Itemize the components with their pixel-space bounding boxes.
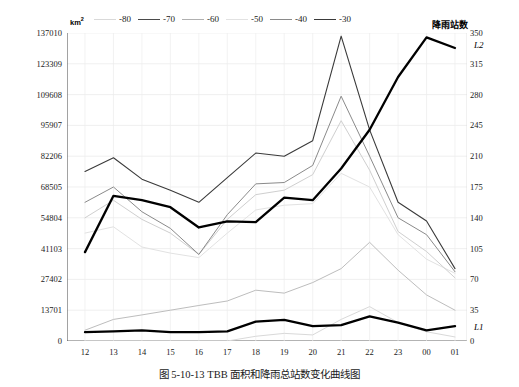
legend-swatch-icon	[94, 19, 116, 20]
left-axis-unit: km2	[70, 16, 84, 27]
x-axis-tick-label: 17	[216, 348, 238, 357]
x-axis-tick-label: 15	[159, 348, 181, 357]
legend-item-minus70[interactable]: -70	[138, 15, 175, 24]
left-axis-tick-label: 109608	[37, 91, 63, 100]
right-axis-tick-label: 140	[470, 214, 483, 223]
x-axis-tick-label: 13	[102, 348, 124, 357]
right-axis-tick-label: 210	[470, 152, 483, 161]
right-axis-title: 降雨站数	[432, 18, 468, 31]
left-axis-tick-label: 27402	[41, 275, 62, 284]
x-axis-tick-label: 21	[330, 348, 352, 357]
left-axis-unit-exponent: 2	[81, 16, 84, 22]
legend-swatch-icon	[314, 19, 336, 20]
left-axis-ticks: 0137012740241103548046850582206959071096…	[0, 0, 62, 387]
left-axis-tick-label: 82206	[41, 152, 62, 161]
right-axis-tick-label: 280	[470, 91, 483, 100]
x-axis-tick-label: 14	[131, 348, 153, 357]
right-axis-tick-label: 315	[470, 60, 483, 69]
left-axis-tick-label: 95907	[41, 121, 62, 130]
right-axis-tick-label: 245	[470, 121, 483, 130]
legend-item-minus30[interactable]: -30	[314, 15, 351, 24]
right-axis-tick-label: 70	[470, 275, 479, 284]
x-axis-tick-label: 01	[444, 348, 466, 357]
x-axis-tick-label: 00	[416, 348, 438, 357]
chart-legend: -80-70-60-50-40-30	[94, 13, 384, 25]
legend-item-minus80[interactable]: -80	[94, 15, 131, 24]
series-label-l1: L1	[474, 322, 484, 332]
left-axis-tick-label: 54804	[41, 214, 62, 223]
series-line-L1	[85, 316, 455, 332]
legend-swatch-icon	[226, 19, 248, 20]
right-axis-tick-label: 105	[470, 245, 483, 254]
left-axis-tick-label: 13701	[41, 306, 62, 315]
left-axis-tick-label: 123309	[37, 60, 63, 69]
legend-swatch-icon	[138, 19, 160, 20]
series-line--60	[85, 173, 455, 273]
right-axis-tick-label: 0	[470, 337, 474, 346]
legend-swatch-icon	[270, 19, 292, 20]
x-axis-tick-label: 12	[74, 348, 96, 357]
chart-svg	[67, 33, 467, 341]
legend-item-label: -40	[295, 15, 307, 24]
plot-area	[67, 33, 467, 341]
legend-item-label: -80	[119, 15, 131, 24]
left-axis-tick-label: 68505	[41, 183, 62, 192]
legend-item-minus50[interactable]: -50	[226, 15, 263, 24]
legend-item-label: -70	[163, 15, 175, 24]
x-axis-tick-label: 22	[359, 348, 381, 357]
legend-item-minus40[interactable]: -40	[270, 15, 307, 24]
x-axis-tick-label: 19	[273, 348, 295, 357]
series-line-	[85, 37, 455, 252]
series-line--30	[85, 36, 455, 268]
x-axis-tick-label: 20	[302, 348, 324, 357]
series-label-l2: L2	[474, 40, 484, 50]
figure-caption: 图 5-10-13 TBB 面积和降雨总站数变化曲线图	[0, 366, 519, 381]
x-axis-tick-label: 16	[188, 348, 210, 357]
left-axis-unit-text: km	[70, 18, 81, 27]
series-line--70	[85, 242, 455, 330]
figure-container: -80-70-60-50-40-30 km2 01370127402411035…	[0, 0, 519, 387]
legend-item-label: -50	[251, 15, 263, 24]
left-axis-tick-label: 137010	[37, 29, 63, 38]
x-axis-tick-label: 18	[245, 348, 267, 357]
right-axis-tick-label: 350	[470, 29, 483, 38]
legend-item-minus60[interactable]: -60	[182, 15, 219, 24]
right-axis-tick-label: 35	[470, 306, 479, 315]
x-axis-tick-label: 23	[387, 348, 409, 357]
left-axis-tick-label: 0	[58, 337, 62, 346]
left-axis-tick-label: 41103	[41, 245, 62, 254]
legend-item-label: -30	[339, 15, 351, 24]
legend-item-label: -60	[207, 15, 219, 24]
legend-swatch-icon	[182, 19, 204, 20]
right-axis-tick-label: 175	[470, 183, 483, 192]
